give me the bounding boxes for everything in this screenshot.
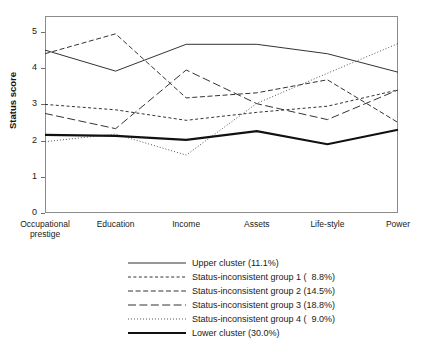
- legend-item: Status-inconsistent group 1 ( 8.8%): [128, 270, 398, 284]
- legend-label: Status-inconsistent group 4 ( 9.0%): [192, 313, 335, 325]
- series-line: [45, 70, 398, 129]
- legend-item: Status-inconsistent group 2 (14.5%): [128, 284, 398, 298]
- legend-label: Status-inconsistent group 3 (18.8%): [192, 299, 335, 311]
- series-lines: [0, 0, 427, 250]
- legend-item: Upper cluster (11.1%): [128, 256, 398, 270]
- legend-line-swatch: [128, 299, 186, 311]
- legend-line-swatch: [128, 257, 186, 269]
- chart-legend: Upper cluster (11.1%)Status-inconsistent…: [128, 256, 398, 340]
- series-line: [45, 34, 398, 123]
- legend-line-swatch: [128, 313, 186, 325]
- legend-label: Status-inconsistent group 1 ( 8.8%): [192, 271, 335, 283]
- legend-line-swatch: [128, 285, 186, 297]
- legend-label: Lower cluster (30.0%): [192, 327, 280, 339]
- legend-item: Lower cluster (30.0%): [128, 326, 398, 340]
- legend-label: Status-inconsistent group 2 (14.5%): [192, 285, 335, 297]
- series-line: [45, 90, 398, 120]
- legend-line-swatch: [128, 327, 186, 339]
- chart-page: Status score 543210 Occupational prestig…: [0, 0, 427, 349]
- line-chart: Status score 543210 Occupational prestig…: [0, 0, 427, 250]
- legend-item: Status-inconsistent group 3 (18.8%): [128, 298, 398, 312]
- series-line: [45, 44, 398, 156]
- legend-label: Upper cluster (11.1%): [192, 257, 279, 269]
- series-line: [45, 130, 398, 144]
- series-line: [45, 44, 398, 72]
- legend-item: Status-inconsistent group 4 ( 9.0%): [128, 312, 398, 326]
- legend-line-swatch: [128, 271, 186, 283]
